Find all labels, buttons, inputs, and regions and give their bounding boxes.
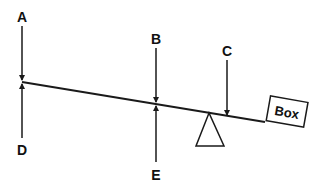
label-d: D: [17, 142, 27, 158]
label-e: E: [151, 167, 160, 183]
label-a: A: [17, 9, 27, 25]
label-c: C: [222, 43, 232, 59]
label-b: B: [151, 31, 161, 47]
box: Box: [266, 96, 308, 127]
fulcrum-triangle: [196, 113, 224, 146]
lever-beam: [22, 82, 265, 122]
lever-diagram: Box A D B E C: [0, 0, 322, 190]
